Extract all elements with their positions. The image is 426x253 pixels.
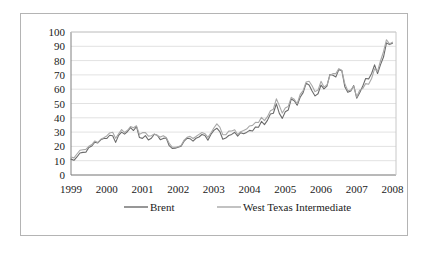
y-tick-label: 90 <box>54 40 66 52</box>
legend-label-wti: West Texas Intermediate <box>243 201 351 213</box>
oil-price-line-chart: 0102030405060708090100 19992000200120022… <box>21 14 407 235</box>
x-tick-label: 2006 <box>310 183 333 195</box>
x-tick-label: 2001 <box>131 183 153 195</box>
x-tick-label: 2003 <box>203 183 226 195</box>
y-tick-label: 80 <box>54 55 66 67</box>
y-tick-label: 50 <box>54 98 66 110</box>
y-tick-label: 30 <box>54 126 66 138</box>
y-tick-label: 60 <box>54 83 66 95</box>
y-tick-label: 100 <box>49 26 66 38</box>
x-tick-label: 2000 <box>96 183 119 195</box>
y-tick-label: 70 <box>54 69 66 81</box>
x-tick-label: 2005 <box>274 183 297 195</box>
legend-label-brent: Brent <box>150 201 174 213</box>
y-tick-label: 0 <box>60 169 66 181</box>
chart-figure-frame: 0102030405060708090100 19992000200120022… <box>20 13 408 236</box>
x-tick-label: 2002 <box>167 183 189 195</box>
x-tick-label: 2008 <box>381 183 404 195</box>
x-tick-label: 2007 <box>346 183 369 195</box>
x-tick-label: 2004 <box>239 183 262 195</box>
x-tick-label: 1999 <box>60 183 83 195</box>
y-tick-label: 40 <box>54 112 66 124</box>
y-tick-label: 20 <box>54 140 66 152</box>
y-tick-label: 10 <box>54 155 66 167</box>
